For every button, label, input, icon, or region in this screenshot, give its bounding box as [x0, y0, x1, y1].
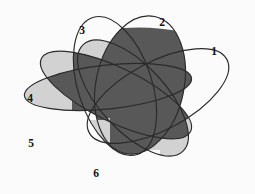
set-label-6: 6 [93, 167, 99, 179]
set-label-4: 4 [27, 92, 33, 104]
set-label-1: 1 [211, 45, 217, 57]
set-label-2: 2 [159, 16, 165, 28]
set-label-5: 5 [28, 137, 34, 149]
set-label-3: 3 [79, 24, 85, 36]
venn-diagram-svg: 1 2 3 4 5 6 [0, 0, 255, 194]
venn-diagram-figure: 1 2 3 4 5 6 [0, 0, 255, 194]
